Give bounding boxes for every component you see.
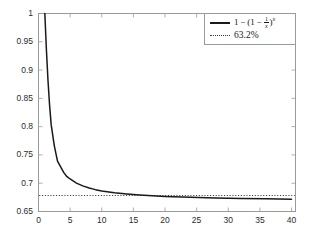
x-tick-label-25: 25 [183,216,211,225]
legend-label-formula: 1 − (1 − 1x)x [234,16,275,30]
legend-swatch-solid-line [209,18,231,28]
y-tick-label-09: 0.9 [3,66,33,75]
y-tick-label-085: 0.85 [3,94,33,103]
x-tick-label-15: 15 [119,216,147,225]
y-tick-label-08: 0.8 [3,122,33,131]
x-tick-label-5: 5 [56,216,84,225]
x-tick-label-35: 35 [246,216,274,225]
legend-box: 1 − (1 − 1x)x 63.2% [204,13,296,45]
y-tick-label-075: 0.75 [3,150,33,159]
x-tick-label-10: 10 [88,216,116,225]
y-tick-label-095: 0.95 [3,37,33,46]
legend-label-percent: 63.2% [234,30,259,40]
x-tick-label-20: 20 [151,216,179,225]
y-tick-label-065: 0.65 [3,207,33,216]
legend-entry-curve: 1 − (1 − 1x)x [209,17,290,29]
legend-swatch-dotted-line [209,30,231,40]
legend-entry-reference: 63.2% [209,29,290,41]
x-tick-label-0: 0 [25,216,53,225]
y-tick-label-07: 0.7 [3,179,33,188]
x-tick-label-40: 40 [278,216,306,225]
formula-fraction-denominator: x [264,23,269,30]
y-tick-label-1: 1 [3,9,33,18]
x-tick-label-30: 30 [214,216,242,225]
formula-fraction: 1x [264,16,269,30]
figure-container: 1 0.95 0.9 0.85 0.8 0.75 0.7 0.65 0 5 10… [0,0,314,249]
formula-exponent: x [273,15,276,22]
